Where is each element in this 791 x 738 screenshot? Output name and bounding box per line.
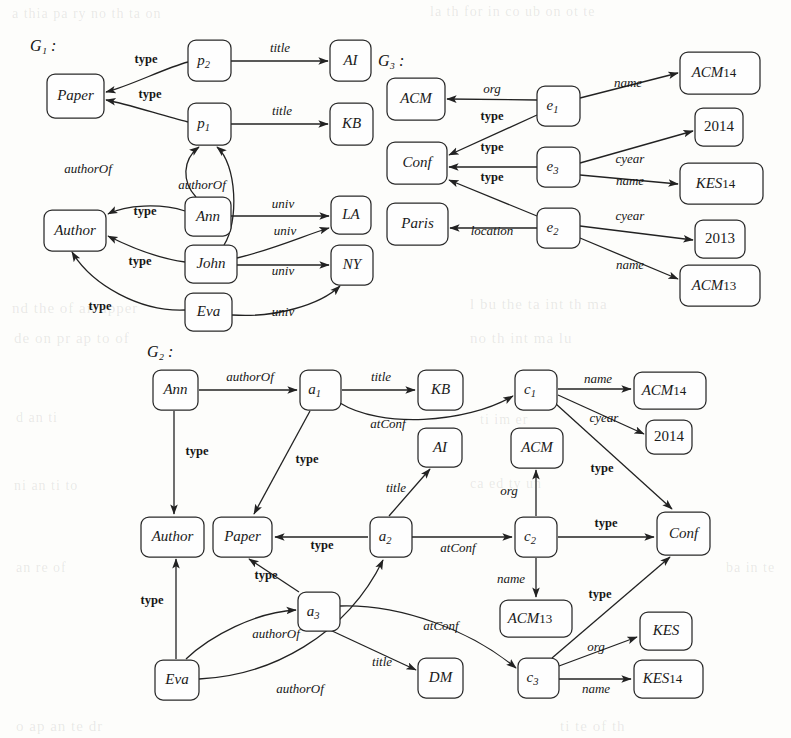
node-label-g2-kb: KB [430,381,450,397]
edge-label-g2-e-eva-a2: authorOf [276,681,326,696]
node-g2-acm[interactable]: ACM [511,428,563,468]
edge-label-g1-e-john-ny: univ [272,263,295,278]
node-g1-eva[interactable]: Eva [185,293,232,331]
node-g3-kes14[interactable]: KES14 [680,163,763,204]
node-g2-kes14[interactable]: KES14 [634,660,703,698]
node-label-g3-acm13: ACM13 [691,277,737,293]
node-label-g2-ann: Ann [162,381,187,397]
node-g3-conf[interactable]: Conf [387,142,447,184]
node-g1-kb[interactable]: KB [330,103,373,145]
edge-label-g2-e-a2-paper: type [311,538,334,552]
edge-label-g2-e-c2-acm13: name [497,571,525,586]
node-box-g3-e1 [537,86,580,126]
node-g2-2014[interactable]: 2014 [646,420,692,454]
node-label-g1-la: LA [341,206,360,222]
node-g1-la[interactable]: LA [331,196,371,234]
edge-label-g1-e-ann-la: univ [272,196,295,211]
edge-label-g2-e-eva-a3: authorOf [252,626,302,641]
node-g1-p1[interactable]: p1 [188,103,231,145]
node-g1-john[interactable]: John [185,245,237,283]
edge-label-g2-e-a3-c3: atConf [423,618,461,633]
edge-label-g1-e-john-p1: authorOf [178,177,228,192]
node-suffix-g3-kes14: 14 [722,175,736,190]
node-g2-paper[interactable]: Paper [213,517,272,557]
node-g2-acm14[interactable]: ACM14 [634,372,706,409]
node-g2-dm[interactable]: DM [418,658,463,698]
node-g3-paris[interactable]: Paris [387,203,448,245]
graph-title-g2: G₂ : [147,343,173,360]
node-g2-author[interactable]: Author [141,517,204,557]
edge-label-g2-e-c3-kes14: name [582,681,610,696]
node-label-g1-ai: AI [342,52,358,68]
node-g2-ai[interactable]: AI [418,428,462,467]
node-label-g1-paper: Paper [56,87,94,103]
node-g2-c3[interactable]: c3 [518,658,559,698]
node-label-g2-2014: 2014 [654,428,685,444]
node-g2-c2[interactable]: c2 [515,517,557,557]
node-g1-ann[interactable]: Ann [185,197,231,236]
node-box-g2-c3 [518,658,559,698]
edge-label-g1-e-eva-author: type [89,299,112,313]
node-g2-a3[interactable]: a3 [298,592,340,631]
node-subscript-g3-e2: 2 [553,226,559,237]
node-label-g1-eva: Eva [196,303,220,319]
node-label-g2-kes14: KES14 [642,670,683,686]
edge-label-g3-e-e3-2014: cyear [616,151,646,166]
node-g3-2014[interactable]: 2014 [695,108,743,146]
edge-label-g3-e-e2-conf: type [481,170,504,184]
node-g3-acm13[interactable]: ACM13 [680,265,760,306]
node-label-g2-acm14: ACM14 [641,382,687,398]
node-g2-ann[interactable]: Ann [153,370,198,410]
graph-title-g3: G₃ : [378,52,404,69]
node-g2-conf[interactable]: Conf [657,512,710,555]
node-g3-e1[interactable]: e1 [537,86,580,126]
figure-root: G₁ :typetitletypetitleauthorOfauthorOfty… [0,0,791,738]
node-g2-c1[interactable]: c1 [515,370,557,410]
node-g2-eva[interactable]: Eva [155,660,199,700]
node-label-g2-author: Author [151,528,194,544]
node-g3-2013[interactable]: 2013 [695,220,745,258]
node-suffix-g2-acm13: 13 [539,610,552,625]
node-g3-acm14[interactable]: ACM14 [680,52,760,94]
node-label-g3-2013: 2013 [705,230,735,246]
node-box-g2-c2 [515,517,557,557]
edge-label-g1-e-p2-paper: type [135,52,158,66]
edge-label-g3-e-e1-conf: type [481,109,504,123]
node-g1-ny[interactable]: NY [331,245,373,285]
node-subscript-g2-a1: 1 [316,388,321,399]
node-subscript-g2-a3: 3 [313,610,319,621]
node-g2-acm13[interactable]: ACM13 [500,600,572,637]
edge-label-g1-e-john-author: type [129,254,152,268]
edge-label-g1-e-p1-kb: title [272,103,292,118]
node-label-g2-dm: DM [428,669,454,685]
edge-g3-e-e2-2013 [580,226,693,240]
edge-label-g3-e-e2-2013: cyear [616,208,646,223]
node-g1-author[interactable]: Author [44,210,106,251]
edge-label-g2-e-c3-conf: type [589,587,612,601]
node-subscript-g3-e1: 1 [553,104,558,115]
edge-label-g3-e-e2-paris: location [471,223,514,238]
edge-label-g3-e-e1-acm: org [483,81,501,96]
node-label-g1-kb: KB [341,115,361,131]
node-g1-paper[interactable]: Paper [47,74,104,118]
node-g3-e3[interactable]: e3 [537,147,580,187]
node-label-g1-author: Author [53,222,96,238]
node-g3-acm[interactable]: ACM [387,78,445,120]
edge-label-g2-e-ann-a1: authorOf [226,369,276,384]
edge-label-g2-e-c3-kes: org [587,639,605,654]
node-g2-kes[interactable]: KES [640,612,692,650]
node-g1-p2[interactable]: p2 [188,40,231,81]
node-g3-e2[interactable]: e2 [537,208,580,248]
node-g2-a2[interactable]: a2 [370,517,412,557]
edge-label-g1-e-p1-paper: type [139,87,162,101]
node-suffix-g2-acm14: 14 [673,382,687,397]
node-g1-ai[interactable]: AI [330,40,371,81]
node-suffix-g3-acm13: 13 [723,277,736,292]
node-suffix-g3-acm14: 14 [723,65,737,80]
node-g2-kb[interactable]: KB [418,370,463,410]
node-subscript-g2-c1: 1 [531,388,536,399]
node-g2-a1[interactable]: a1 [300,370,341,410]
node-label-g1-john: John [196,255,225,271]
edge-label-g1-e-ann-p1: authorOf [64,161,114,176]
node-label-g2-kes: KES [652,622,680,638]
